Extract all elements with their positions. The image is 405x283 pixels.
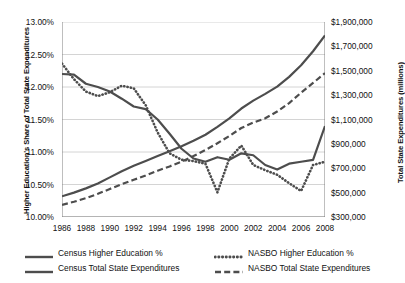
legend-label: NASBO Higher Education % <box>248 248 354 258</box>
legend-swatch <box>24 248 54 258</box>
series-line <box>62 35 325 196</box>
plot-svg <box>62 22 325 217</box>
legend-item[interactable]: Census Total State Expenditures <box>24 263 179 273</box>
y2-tick-label: $1,500,000 <box>331 66 381 76</box>
x-tick-label: 2008 <box>310 223 340 233</box>
y2-tick-label: $1,100,000 <box>331 115 381 125</box>
legend-swatch <box>24 263 54 273</box>
y-tick-label: 12.50% <box>10 50 54 60</box>
legend-swatch <box>214 263 244 273</box>
series-line <box>62 64 325 193</box>
y-tick-label: 10.50% <box>10 180 54 190</box>
y-tick-label: 11.50% <box>10 115 54 125</box>
y2-tick-label: $1,700,000 <box>331 41 381 51</box>
y-tick-label: 13.00% <box>10 17 54 27</box>
y2-tick-label: $300,000 <box>331 212 381 222</box>
legend-item[interactable]: NASBO Total State Expenditures <box>214 263 370 273</box>
chart-legend: Census Higher Education %NASBO Higher Ed… <box>24 248 376 280</box>
plot-area <box>62 22 325 217</box>
legend-label: Census Higher Education % <box>58 248 163 258</box>
y-tick-label: 12.00% <box>10 82 54 92</box>
y2-tick-label: $500,000 <box>331 188 381 198</box>
y2-tick-label: $1,900,000 <box>331 17 381 27</box>
y-tick-label: 10.00% <box>10 212 54 222</box>
legend-swatch <box>214 248 244 258</box>
series-line <box>62 73 325 205</box>
y2-tick-label: $900,000 <box>331 139 381 149</box>
y2-tick-label: $700,000 <box>331 163 381 173</box>
y-tick-label: 11.00% <box>10 147 54 157</box>
legend-item[interactable]: NASBO Higher Education % <box>214 248 354 258</box>
y2-tick-label: $1,300,000 <box>331 90 381 100</box>
right-axis-title: Total State Expenditures (millions) <box>396 28 405 218</box>
legend-item[interactable]: Census Higher Education % <box>24 248 163 258</box>
legend-label: Census Total State Expenditures <box>58 263 179 273</box>
legend-label: NASBO Total State Expenditures <box>248 263 370 273</box>
